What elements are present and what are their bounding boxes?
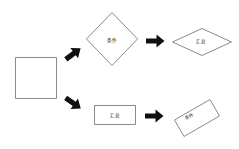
arrow-process-bottom-to-result-bottom [145,110,164,123]
arrow-source-to-process-bottom [62,93,84,114]
node-process-bottom-rectangle[interactable] [95,106,136,125]
arrow-head-icon [62,93,84,114]
arrow-head-icon [145,110,164,123]
node-source-square[interactable] [16,58,57,99]
node-decision-top-diamond[interactable] [87,13,138,66]
diagram-canvas: 条件 汇总 汇总 条件 [0,0,239,149]
node-result-top-diamond[interactable] [173,29,232,56]
node-result-bottom-rectangle[interactable] [174,100,219,137]
arrow-head-icon [146,35,165,48]
arrow-decision-top-to-result-top [146,35,165,48]
arrow-head-icon [62,43,84,64]
arrow-source-to-decision-top [62,43,84,64]
diagram-svg [0,0,239,149]
